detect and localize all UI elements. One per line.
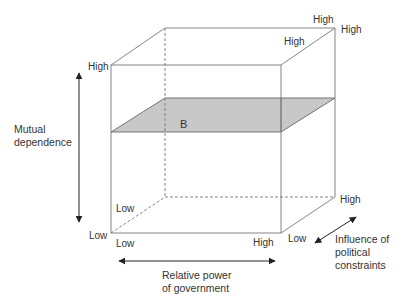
cube-diagram: B Mutual dependence Relative power of go…	[0, 0, 404, 304]
back-top-high-label: High	[284, 36, 305, 47]
depth-low-label: Low	[288, 233, 307, 244]
depth-axis-title: Influence of political constraints	[335, 233, 392, 271]
horizontal-axis-title: Relative power of government	[162, 269, 234, 294]
back-top-right-high-label-a: High	[313, 14, 334, 25]
vertical-axis-title: Mutual dependence	[14, 123, 72, 148]
depth-high-label: High	[340, 194, 361, 205]
horizontal-low-label: Low	[116, 238, 135, 249]
back-top-right-high-label-b: High	[341, 24, 362, 35]
plane-b-label: B	[180, 118, 187, 130]
back-bottom-left-low-label: Low	[116, 203, 135, 214]
horizontal-high-label: High	[253, 237, 274, 248]
plane-b	[111, 98, 335, 132]
vertical-low-label: Low	[89, 230, 108, 241]
vertical-high-label: High	[88, 61, 109, 72]
